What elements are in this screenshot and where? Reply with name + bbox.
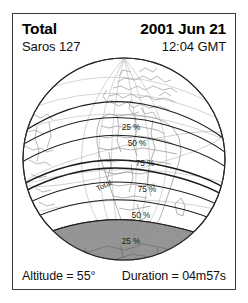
eclipse-date-label: 2001 Jun 21: [140, 20, 226, 38]
contour-label-upper-25: 25 %: [122, 123, 141, 132]
saros-label: Saros 127: [22, 40, 80, 55]
eclipse-type-label: Total: [22, 20, 57, 38]
header-secondary-row: Saros 127 12:04 GMT: [22, 40, 226, 55]
header: Total 2001 Jun 21 Saros 127 12:04 GMT: [13, 14, 235, 55]
footer-row: Altitude = 55° Duration = 04m57s: [22, 269, 226, 283]
contour-label-upper-75: 75 %: [136, 159, 155, 168]
duration-label: Duration = 04m57s: [122, 269, 226, 283]
globe-container: 25 % 50 % 75 % Total 75 % 50 % 25 %: [13, 56, 235, 268]
eclipse-time-label: 12:04 GMT: [162, 40, 226, 55]
contour-label-lower-25: 25 %: [122, 237, 141, 246]
contour-label-upper-50: 50 %: [128, 139, 147, 148]
eclipse-map-page: Total 2001 Jun 21 Saros 127 12:04 GMT: [0, 0, 248, 303]
footer: Altitude = 55° Duration = 04m57s: [13, 269, 235, 283]
header-primary-row: Total 2001 Jun 21: [22, 20, 226, 38]
contour-label-lower-50: 50 %: [132, 211, 151, 220]
map-frame: Total 2001 Jun 21 Saros 127 12:04 GMT: [12, 13, 236, 290]
contour-label-lower-75: 75 %: [138, 185, 157, 194]
eclipse-globe: 25 % 50 % 75 % Total 75 % 50 % 25 %: [13, 56, 235, 268]
altitude-label: Altitude = 55°: [22, 269, 95, 283]
